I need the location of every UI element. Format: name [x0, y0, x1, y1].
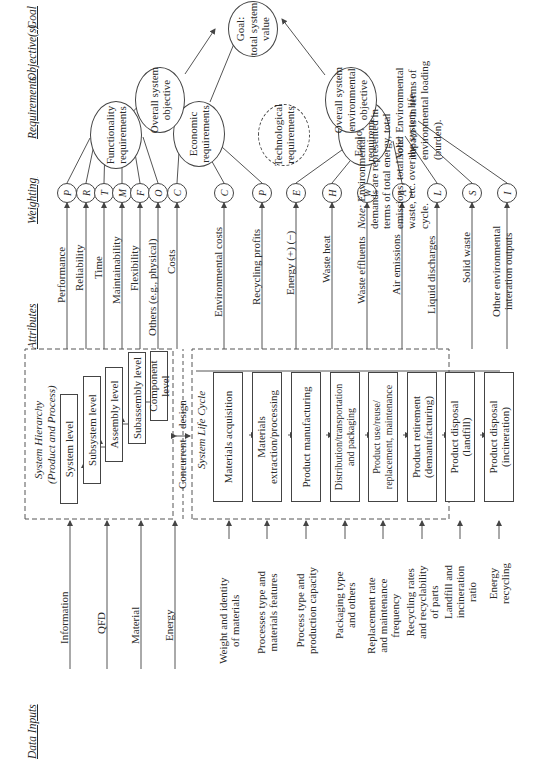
- weight-f-flexibility: F: [130, 183, 150, 203]
- system-hierarchy-title: System Hierarchy: [32, 401, 44, 479]
- overall-system-objective: Overall system objective: [135, 67, 185, 133]
- data-input-information: Information: [58, 591, 70, 644]
- attribute-environmental-costs: Environmental costs: [212, 227, 224, 317]
- life-cycle-title: System Life Cycle: [195, 391, 207, 469]
- attribute-reliability: Reliability: [73, 245, 85, 291]
- stage-product-retirement: Product retirement (demanufacturing): [407, 372, 437, 502]
- weight-s-solid-waste: S: [462, 183, 482, 203]
- stage-materials-acquisition: Materials acquisition: [213, 372, 243, 502]
- header-objectives: Objective(s): [26, 25, 38, 81]
- attribute-costs: Costs: [165, 250, 177, 274]
- weight-o-others: O: [148, 183, 168, 203]
- weight-r-reliability: R: [76, 183, 96, 203]
- stage-distribution: Distribution/transportation and packagin…: [330, 372, 360, 502]
- hierarchy-assembly-level: Assembly level: [105, 367, 123, 462]
- attribute-other-environmental: Other environmental interation outputs: [490, 226, 514, 317]
- stage-product-manufacturing: Product manufacturing: [291, 372, 321, 502]
- weight-t-time: T: [94, 183, 114, 203]
- weight-e-energy: E: [286, 183, 306, 203]
- note-prefix: Note:: [355, 205, 367, 229]
- data-input-packaging: Packaging type and others: [333, 571, 357, 639]
- header-data-inputs: Data Inputs: [26, 704, 38, 759]
- attribute-performance: Performance: [55, 247, 67, 303]
- header-weighting: Weighting: [26, 178, 38, 224]
- data-input-material: Material: [129, 607, 141, 644]
- data-input-processes-type: Processes type and materials features: [255, 571, 279, 654]
- stage-product-use: Product use/reuse/ replacement, maintena…: [368, 372, 398, 502]
- attribute-liquid-discharges: Liquid discharges: [425, 236, 437, 314]
- concurrent-label: Concurrent: [176, 440, 188, 489]
- note-environmental-demands: Note: Environmental demands are represen…: [355, 94, 430, 229]
- data-input-qfd: QFD: [95, 612, 107, 634]
- hierarchy-system-level: System level: [60, 394, 78, 504]
- stage-disposal-incineration: Product disposal (incineration): [484, 372, 514, 502]
- weight-c-costs: C: [167, 183, 187, 203]
- data-input-energy-recycling: Energy recycling: [487, 563, 511, 604]
- weight-i-other-outputs: I: [497, 183, 517, 203]
- attribute-energy: Energy (+) (−): [284, 231, 296, 295]
- header-requirements: Requirements: [26, 76, 38, 139]
- attribute-others: Others (e.g., physical): [146, 239, 158, 336]
- attribute-recycling-profits: Recycling profits: [250, 229, 262, 305]
- weight-h-waste-heat: H: [322, 183, 342, 203]
- weight-m-maintainability: M: [112, 183, 132, 203]
- hierarchy-subsystem-level: Subsystem level: [83, 376, 101, 484]
- stage-disposal-landfill: Product disposal (landfill): [445, 372, 475, 502]
- attribute-flexibility: Flexibility: [128, 245, 140, 291]
- weight-p-recycling-profits: P: [252, 183, 272, 203]
- attribute-time: Time: [92, 256, 104, 279]
- data-input-weight-identity: Weight and identity of materials: [217, 578, 241, 665]
- attribute-waste-heat: Waste heat: [320, 235, 332, 283]
- data-input-energy: Energy: [163, 609, 175, 641]
- system-hierarchy-subtitle: (Product and Process): [45, 385, 57, 484]
- weight-c-environmental-costs: C: [214, 183, 234, 203]
- attribute-air-emissions: Air emissions: [390, 234, 402, 295]
- goal-total-system-value: Goal: total system value: [228, 1, 278, 57]
- attribute-waste-effluents: Waste effluents: [355, 236, 367, 304]
- header-goal: Goal: [26, 6, 38, 29]
- data-input-recycling-rates: Recycling rates and recyclability of par…: [404, 565, 440, 639]
- design-label: design: [176, 400, 188, 429]
- weight-l-liquid-discharges: L: [427, 183, 447, 203]
- technological-requirements: Technological requirements: [258, 104, 310, 166]
- data-input-process-capacity: Process type and production capacity: [294, 567, 318, 654]
- diagram-stage: Data Inputs Attributes Weighting Require…: [0, 0, 537, 769]
- hierarchy-component-level: Component level: [150, 351, 168, 421]
- data-input-landfill: Landfill and incineration ratio: [442, 565, 478, 619]
- hierarchy-subassembly-level: Subassembly level: [128, 352, 146, 444]
- data-input-replacement: Replacement rate and maintenance frequen…: [365, 577, 401, 654]
- header-attributes: Attributes: [26, 304, 38, 349]
- weight-p-performance: P: [57, 183, 77, 203]
- functionality-requirements: Functionality requirements: [90, 101, 142, 169]
- stage-materials-extraction: Materials extraction/processing: [252, 372, 282, 502]
- attribute-solid-waste: Solid waste: [460, 232, 472, 283]
- attribute-maintainability: Maintainability: [110, 236, 122, 304]
